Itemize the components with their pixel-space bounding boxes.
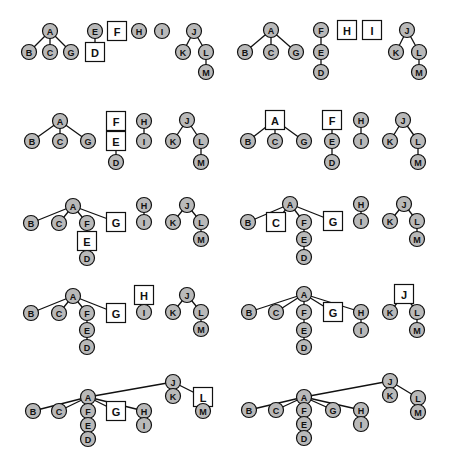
node-I: I xyxy=(354,417,369,432)
node-label: D xyxy=(84,254,91,264)
node-E: E xyxy=(107,132,126,151)
node-H: H xyxy=(354,305,369,320)
node-B: B xyxy=(24,306,39,321)
node-label: D xyxy=(84,343,91,353)
node-label: H xyxy=(140,290,148,302)
node-label: D xyxy=(301,253,308,263)
node-I: I xyxy=(137,215,152,230)
node-label: J xyxy=(184,201,189,211)
node-C: C xyxy=(264,45,279,60)
node-label: L xyxy=(203,48,209,58)
node-D: D xyxy=(109,155,124,170)
node-label: L xyxy=(200,392,207,404)
node-B: B xyxy=(241,134,256,149)
node-label: E xyxy=(301,326,307,336)
node-label: M xyxy=(415,68,423,78)
node-D: D xyxy=(80,340,95,355)
node-label: H xyxy=(141,117,148,127)
node-label: K xyxy=(170,218,177,228)
node-C: C xyxy=(53,134,68,149)
node-label: G xyxy=(329,216,338,228)
node-J: J xyxy=(180,288,195,303)
node-label: E xyxy=(85,421,91,431)
node-label: C xyxy=(47,48,54,58)
node-E: E xyxy=(80,323,95,338)
panel-5: ABCFGEDHIJKLM xyxy=(24,198,209,266)
node-L: L xyxy=(194,134,209,149)
node-J: J xyxy=(400,23,415,38)
node-label: I xyxy=(370,25,373,37)
node-B: B xyxy=(241,215,256,230)
node-label: M xyxy=(202,68,210,78)
node-label: J xyxy=(404,26,409,36)
panel-6: ABCFGEDHIJKLM xyxy=(241,197,425,265)
node-label: E xyxy=(112,136,119,148)
node-K: K xyxy=(383,214,398,229)
node-label: B xyxy=(29,137,36,147)
node-D: D xyxy=(314,65,329,80)
node-label: A xyxy=(301,393,308,403)
node-label: C xyxy=(268,48,275,58)
node-E: E xyxy=(88,24,103,39)
node-label: H xyxy=(358,308,365,318)
node-label: F xyxy=(301,308,307,318)
edge-J-A xyxy=(304,381,390,397)
node-B: B xyxy=(22,45,37,60)
node-G: G xyxy=(107,213,126,232)
node-label: D xyxy=(85,435,92,445)
node-B: B xyxy=(24,216,39,231)
node-label: C xyxy=(272,137,279,147)
panel-2: ABCGFEDHIJKLM xyxy=(238,21,427,80)
node-C: C xyxy=(267,213,286,232)
node-label: F xyxy=(301,218,307,228)
node-H: H xyxy=(137,114,152,129)
node-label: M xyxy=(414,408,422,418)
node-label: J xyxy=(191,27,196,37)
node-A: A xyxy=(297,287,312,302)
node-K: K xyxy=(383,305,398,320)
node-C: C xyxy=(268,134,283,149)
node-label: B xyxy=(26,48,33,58)
node-I: I xyxy=(363,21,382,40)
node-L: L xyxy=(199,45,214,60)
node-label: F xyxy=(113,116,120,128)
node-label: J xyxy=(401,200,406,210)
node-H: H xyxy=(354,403,369,418)
node-D: D xyxy=(80,251,95,266)
node-B: B xyxy=(242,403,257,418)
node-label: C xyxy=(273,406,280,416)
node-M: M xyxy=(199,65,214,80)
node-label: H xyxy=(141,201,148,211)
node-label: G xyxy=(112,406,121,418)
node-B: B xyxy=(25,134,40,149)
node-C: C xyxy=(269,403,284,418)
node-F: F xyxy=(80,216,95,231)
node-label: F xyxy=(301,406,307,416)
node-label: G xyxy=(112,308,121,320)
node-label: I xyxy=(360,326,363,336)
node-label: B xyxy=(30,407,37,417)
node-D: D xyxy=(297,431,312,446)
node-label: L xyxy=(415,137,421,147)
node-label: F xyxy=(84,309,90,319)
node-F: F xyxy=(297,305,312,320)
node-F: F xyxy=(297,215,312,230)
node-label: D xyxy=(113,158,120,168)
node-label: M xyxy=(413,326,421,336)
node-label: H xyxy=(141,407,148,417)
node-label: A xyxy=(47,27,54,37)
node-A: A xyxy=(264,23,279,38)
panel-4: ABCGFEDHIJKLM xyxy=(241,111,426,170)
node-K: K xyxy=(166,134,181,149)
node-J: J xyxy=(396,113,411,128)
node-label: A xyxy=(70,202,77,212)
node-label: H xyxy=(343,25,351,37)
node-C: C xyxy=(52,216,67,231)
node-G: G xyxy=(297,134,312,149)
edge-J-A xyxy=(88,382,173,397)
node-label: I xyxy=(360,420,363,430)
node-D: D xyxy=(297,340,312,355)
node-B: B xyxy=(242,305,257,320)
node-E: E xyxy=(297,232,312,247)
node-label: A xyxy=(301,290,308,300)
